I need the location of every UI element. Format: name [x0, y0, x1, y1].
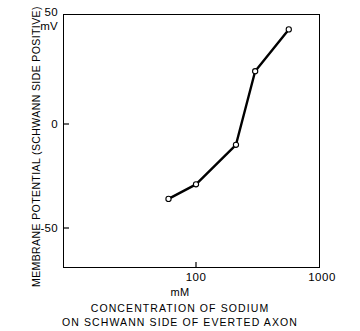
y-tick-label-0: 0 — [14, 118, 58, 130]
figure: MEMBRANE POTENTIAL (SCHWANN SIDE POSITIV… — [0, 0, 360, 331]
data-point-3 — [233, 142, 238, 147]
y-axis-unit-label: mV — [14, 20, 58, 32]
y-axis-ticks — [63, 124, 69, 228]
data-point-5 — [286, 27, 291, 32]
x-tick-label-100: 100 — [172, 271, 220, 283]
data-point-markers — [166, 27, 291, 202]
x-axis-unit-label: mM — [0, 286, 360, 298]
y-tick-label-minus-50: -50 — [14, 222, 58, 234]
data-point-1 — [166, 196, 171, 201]
x-tick-label-1000: 1000 — [294, 271, 350, 283]
y-tick-label-50: 50 — [14, 6, 58, 18]
data-series-line — [168, 29, 288, 198]
data-point-4 — [253, 69, 258, 74]
x-axis-title-line-1: CONCENTRATION OF SODIUM — [0, 302, 360, 314]
x-axis-title-line-2: ON SCHWANN SIDE OF EVERTED AXON — [0, 316, 360, 328]
y-axis-title: MEMBRANE POTENTIAL (SCHWANN SIDE POSITIV… — [28, 17, 44, 287]
data-point-2 — [193, 182, 198, 187]
plot-canvas — [63, 14, 320, 268]
